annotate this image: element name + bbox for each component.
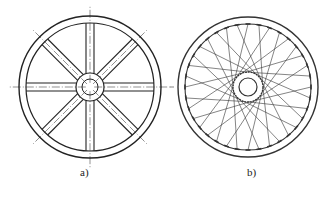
centerline (93, 90, 147, 144)
spoke-nipple (256, 149, 261, 150)
spoke-nipple (277, 140, 281, 143)
spoke-nipple (295, 126, 298, 130)
spoke-nipple (267, 27, 272, 29)
spoke-nipple (256, 25, 261, 26)
wire-spoke (186, 98, 244, 102)
wire-spoke (237, 25, 260, 79)
spoke-edge (42, 45, 78, 81)
wire-spoke (236, 95, 259, 149)
wire-spoke (226, 28, 233, 86)
wire-spoke (261, 47, 296, 94)
wire-spoke (189, 76, 238, 108)
spoke-nipple (198, 45, 201, 49)
spoke-edge (97, 99, 133, 135)
centerline (33, 90, 87, 144)
spoke-edge (42, 94, 78, 130)
wire-spoke (208, 100, 255, 135)
wire-spoke (200, 80, 235, 127)
spoke-nipple (306, 106, 308, 111)
spoke-edge (102, 94, 138, 130)
spoke-nipple (306, 63, 308, 68)
wire-spoke (241, 39, 288, 74)
wire-spoke (254, 87, 311, 101)
spoke-nipple (287, 134, 291, 137)
wire-spoke (249, 102, 307, 109)
spoke-edge (97, 39, 133, 75)
spoke-edge (48, 39, 84, 75)
panel-a-label: a) (80, 166, 89, 178)
wire-spoke (256, 75, 310, 98)
spoke-nipple (310, 74, 311, 79)
spoke-edge (102, 45, 138, 81)
rim-outer (178, 17, 318, 157)
spoke-nipple (192, 53, 195, 57)
spoke-nipple (301, 53, 304, 57)
wire-spoke (189, 65, 247, 72)
spoke-nipple (188, 63, 190, 68)
spoke-nipple (310, 95, 311, 100)
centerline (33, 30, 87, 84)
panel-b-label: b) (247, 166, 256, 178)
spoke-nipple (186, 95, 187, 100)
wheel-a-spoked (9, 6, 171, 168)
spoke-edge (48, 99, 84, 135)
spoke-nipple (224, 145, 229, 147)
hub-bore (239, 78, 257, 96)
wire-spoke (252, 72, 310, 76)
spoke-nipple (235, 149, 240, 150)
spoke-nipple (206, 37, 210, 40)
wheel-diagram (0, 0, 334, 202)
wire-spoke (263, 88, 270, 146)
spoke-nipple (192, 116, 195, 120)
spoke-nipple (214, 31, 218, 34)
spoke-nipple (301, 116, 304, 120)
spoke-nipple (186, 74, 187, 79)
wire-spoke (258, 65, 307, 97)
rim-inner (185, 24, 311, 150)
spoke-nipple (235, 25, 240, 26)
spoke-nipple (214, 140, 218, 143)
spoke-nipple (267, 145, 272, 147)
wire-spoke (259, 25, 263, 83)
wire-spoke (233, 91, 237, 149)
wheel-b-wire-spoked (170, 17, 318, 157)
wire-spoke (186, 76, 240, 99)
spoke-nipple (224, 27, 229, 29)
spoke-nipple (188, 106, 190, 111)
wire-spoke (226, 97, 258, 146)
spoke-nipple (277, 31, 281, 34)
wire-spoke (237, 28, 269, 77)
centerline (93, 30, 147, 84)
